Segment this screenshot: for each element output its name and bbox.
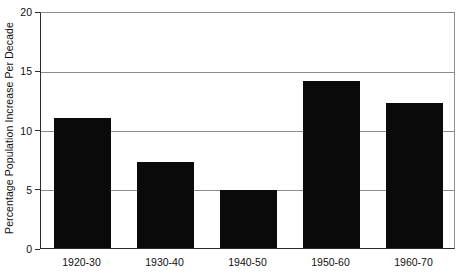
bar [220, 190, 277, 248]
bar [54, 118, 111, 248]
y-tick-label: 20 [6, 7, 32, 17]
x-tick-label: 1950-60 [289, 256, 372, 268]
x-tick-label: 1960-70 [372, 256, 455, 268]
bar [303, 81, 360, 248]
x-tick-label: 1930-40 [123, 256, 206, 268]
gridline [41, 72, 454, 73]
bar-chart-figure: Percentage Population Increase Per Decad… [0, 0, 466, 276]
y-tick-label: 10 [6, 126, 32, 136]
y-tick-label: 0 [6, 244, 32, 254]
x-tick-label: 1940-50 [206, 256, 289, 268]
plot-area [40, 12, 455, 249]
bar [137, 162, 194, 249]
x-tick-label: 1920-30 [40, 256, 123, 268]
y-tick-label: 5 [6, 185, 32, 195]
y-tick-label: 15 [6, 66, 32, 76]
bar [386, 103, 443, 248]
